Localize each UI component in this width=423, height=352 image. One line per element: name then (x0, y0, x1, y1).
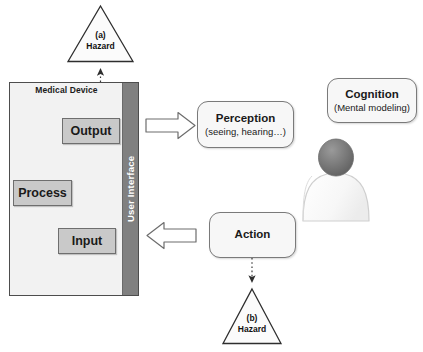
diagram-canvas: Medical Device User Interface Output Pro… (0, 0, 423, 352)
device-block-input-label: Input (72, 234, 103, 248)
medical-device-label: Medical Device (9, 85, 124, 95)
user-interface-bar (122, 83, 138, 295)
perception-box: Perception (seeing, hearing…) (197, 101, 294, 148)
device-block-process: Process (13, 180, 72, 206)
device-block-output: Output (62, 118, 120, 144)
device-block-input: Input (58, 228, 116, 254)
action-title: Action (235, 228, 271, 241)
cognition-title: Cognition (345, 88, 399, 101)
cognition-box: Cognition (Mental modeling) (327, 78, 417, 123)
device-block-process-label: Process (18, 186, 67, 200)
device-block-output-label: Output (71, 124, 112, 138)
hazard-triangle-b (223, 289, 281, 344)
block-arrow-ui-to-perception (146, 113, 195, 139)
block-arrow-action-to-ui (147, 223, 196, 249)
perception-subtitle: (seeing, hearing…) (205, 126, 286, 137)
hazard-triangle-a (68, 6, 133, 62)
perception-title: Perception (216, 112, 275, 125)
action-box: Action (209, 212, 296, 258)
cognition-subtitle: (Mental modeling) (334, 102, 410, 113)
person-silhouette-icon (303, 139, 369, 221)
